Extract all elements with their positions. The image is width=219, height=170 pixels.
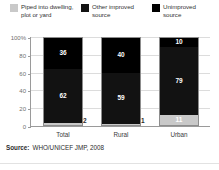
legend-swatch-piped [10, 4, 18, 12]
chart-legend: Piped into dwelling, plot or yard Other … [10, 3, 215, 29]
bar-segment-rural-other-improved[interactable]: 59 [102, 73, 140, 124]
bar-value-rural-unimproved: 40 [117, 52, 124, 59]
ytick-mark-40 [28, 91, 31, 92]
legend-label-unimproved: Unimproved source [163, 3, 214, 19]
source-label: Source: [6, 144, 29, 151]
xtick-label-rural: Rural [95, 131, 147, 138]
bar-group-urban: 10 79 11 Urban [153, 37, 205, 126]
bar-group-rural: 40 59 1 Rural [95, 37, 147, 126]
bar-segment-urban-piped[interactable]: 11 [160, 115, 198, 125]
stacked-bar-total[interactable]: 36 62 2 [43, 37, 83, 126]
top-divider [0, 0, 219, 1]
legend-item-unimproved: Unimproved source [152, 3, 214, 19]
legend-item-piped: Piped into dwelling, plot or yard [10, 3, 76, 19]
ytick-label-20: 20 [19, 106, 26, 112]
ytick-mark-20 [28, 109, 31, 110]
source-text: WHO/UNICEF JMP, 2008 [32, 144, 104, 151]
bar-segment-urban-unimproved[interactable]: 10 [160, 38, 198, 47]
legend-label-piped: Piped into dwelling, plot or yard [21, 3, 76, 19]
ytick-mark-60 [28, 74, 31, 75]
stacked-bar-rural[interactable]: 40 59 1 [101, 37, 141, 126]
bottom-divider [0, 163, 219, 164]
bar-value-urban-piped: 11 [176, 117, 183, 124]
bar-group-total: 36 62 2 Total [37, 37, 89, 126]
xtick-label-total: Total [37, 131, 89, 138]
bar-value-total-unimproved: 36 [59, 50, 66, 57]
legend-swatch-other-improved [81, 4, 89, 12]
stacked-bar-urban[interactable]: 10 79 11 [159, 37, 199, 126]
bar-segment-rural-unimproved[interactable]: 40 [102, 38, 140, 73]
bar-value-urban-unimproved: 10 [175, 39, 182, 46]
gridline-0: 0 [31, 126, 210, 127]
bar-value-total-other-improved: 62 [59, 93, 66, 100]
ytick-mark-100 [28, 38, 31, 39]
ytick-mark-0 [28, 127, 31, 128]
bar-segment-total-other-improved[interactable]: 62 [44, 69, 82, 123]
bar-value-rural-piped: 1 [141, 118, 145, 125]
xtick-label-urban: Urban [153, 131, 205, 138]
source-note: Source:WHO/UNICEF JMP, 2008 [6, 144, 104, 151]
ytick-label-0: 0 [23, 124, 26, 130]
bar-value-urban-other-improved: 79 [175, 78, 182, 85]
ytick-mark-80 [28, 56, 31, 57]
ytick-label-40: 40 [19, 88, 26, 94]
bar-value-rural-other-improved: 59 [117, 95, 124, 102]
legend-item-other-improved: Other improved source [81, 3, 147, 19]
ytick-label-100: 100% [11, 35, 26, 41]
chart-figure: Piped into dwelling, plot or yard Other … [0, 0, 219, 170]
bar-segment-total-piped[interactable]: 2 [44, 123, 82, 125]
bar-value-total-piped: 2 [83, 118, 87, 125]
bar-segment-rural-piped[interactable]: 1 [102, 124, 140, 125]
bar-segment-urban-other-improved[interactable]: 79 [160, 47, 198, 116]
bar-segment-total-unimproved[interactable]: 36 [44, 38, 82, 69]
legend-label-other-improved: Other improved source [92, 3, 147, 19]
plot-area: 100% 80 60 40 20 0 36 [30, 37, 210, 127]
legend-swatch-unimproved [152, 4, 160, 12]
ytick-label-60: 60 [19, 71, 26, 77]
ytick-label-80: 80 [19, 53, 26, 59]
